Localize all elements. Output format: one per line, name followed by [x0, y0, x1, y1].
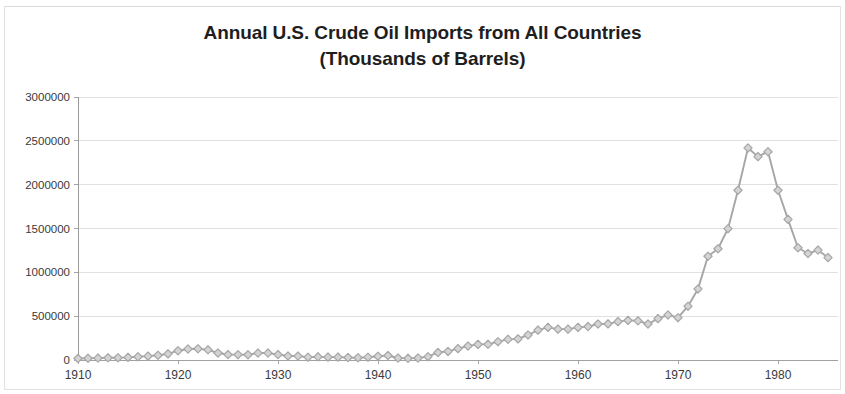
y-axis-tick-label: 1500000: [25, 223, 70, 235]
x-axis-tick-label: 1910: [38, 369, 118, 382]
y-axis-tick-label: 3000000: [25, 91, 70, 103]
x-axis-tick-label: 1970: [638, 369, 718, 382]
x-axis-tick-label: 1960: [538, 369, 618, 382]
y-axis-tick-label: 0: [64, 354, 70, 366]
chart-figure: Annual U.S. Crude Oil Imports from All C…: [0, 0, 845, 394]
x-axis-tick-label: 1980: [738, 369, 818, 382]
y-axis-tick-label: 500000: [32, 310, 70, 322]
x-axis-tick-label: 1920: [138, 369, 218, 382]
chart-plot-svg: [0, 0, 845, 394]
y-axis-tick-label: 2500000: [25, 135, 70, 147]
plot-area: 0500000100000015000002000000250000030000…: [0, 0, 845, 394]
series-line-annual-imports: [78, 148, 828, 359]
x-axis-tick-label: 1940: [338, 369, 418, 382]
x-axis-tick-label: 1930: [238, 369, 318, 382]
x-tick-marks: [74, 97, 778, 364]
y-axis-tick-label: 2000000: [25, 179, 70, 191]
series-markers-annual-imports: [74, 144, 832, 363]
y-axis-tick-label: 1000000: [25, 266, 70, 278]
x-axis-tick-label: 1950: [438, 369, 518, 382]
